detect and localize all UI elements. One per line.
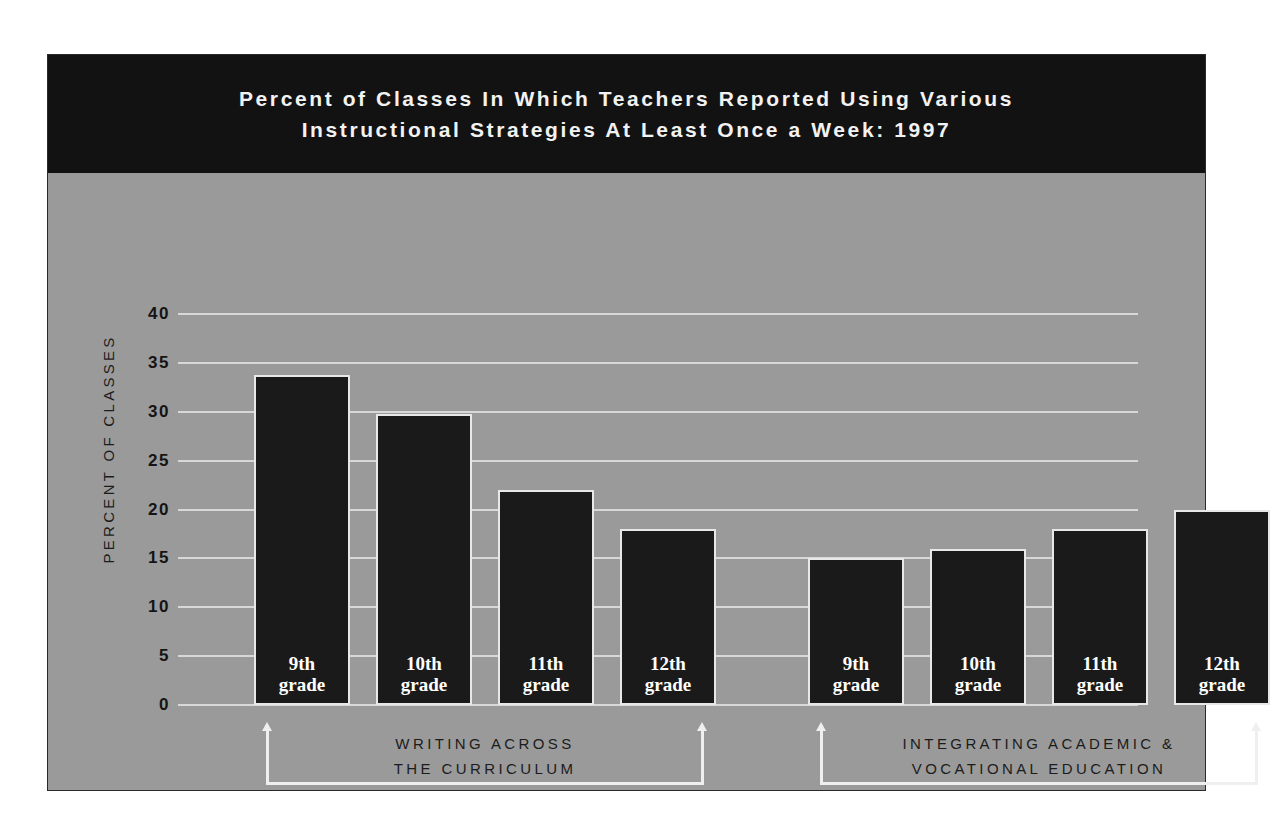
bar: 12thgrade	[1174, 510, 1270, 706]
bar-label: 12th	[1204, 653, 1240, 674]
gridline	[206, 362, 1138, 364]
group-bracket: INTEGRATING ACADEMIC &VOCATIONAL EDUCATI…	[820, 727, 1258, 785]
y-axis-tick	[178, 509, 210, 511]
bar-label: grade	[401, 674, 447, 695]
plot-region: PERCENT OF CLASSES 05101520253035409thgr…	[48, 173, 1205, 790]
bracket-arrow-icon	[1251, 722, 1261, 731]
group-label-line: INTEGRATING ACADEMIC &	[820, 731, 1258, 756]
y-axis-tick-label: 20	[106, 500, 170, 520]
bar-label: 9th	[289, 653, 315, 674]
y-axis-tick-label: 0	[106, 695, 170, 715]
bar-label: 10th	[960, 653, 996, 674]
chart-figure: Percent of Classes In Which Teachers Rep…	[48, 55, 1205, 790]
bar-label: 12th	[650, 653, 686, 674]
y-axis-tick-label: 25	[106, 451, 170, 471]
y-axis-tick	[178, 655, 210, 657]
bar-label: grade	[279, 674, 325, 695]
chart-title-band: Percent of Classes In Which Teachers Rep…	[48, 55, 1205, 173]
bar-label: 11th	[1083, 653, 1118, 674]
group-label-line: THE CURRICULUM	[266, 756, 704, 781]
bracket-arrow-icon	[262, 722, 272, 731]
group-label-line: WRITING ACROSS	[266, 731, 704, 756]
bracket-arrow-icon	[697, 722, 707, 731]
bar-label: grade	[645, 674, 691, 695]
y-axis-tick-label: 10	[106, 597, 170, 617]
bar: 9thgrade	[254, 375, 350, 705]
bar-label: 9th	[843, 653, 869, 674]
bar: 12thgrade	[620, 529, 716, 705]
group-label: INTEGRATING ACADEMIC &VOCATIONAL EDUCATI…	[820, 731, 1258, 781]
group-bracket: WRITING ACROSSTHE CURRICULUM	[266, 727, 704, 785]
bar: 10thgrade	[376, 414, 472, 705]
y-axis-tick-label: 30	[106, 402, 170, 422]
y-axis-tick	[178, 313, 210, 315]
bar-label: 10th	[406, 653, 442, 674]
bar-label: grade	[1199, 674, 1245, 695]
bar-label: grade	[523, 674, 569, 695]
y-axis-tick-label: 40	[106, 304, 170, 324]
chart-title-line-1: Percent of Classes In Which Teachers Rep…	[239, 83, 1014, 114]
bar-label: grade	[955, 674, 1001, 695]
bar-label: 11th	[529, 653, 564, 674]
group-label: WRITING ACROSSTHE CURRICULUM	[266, 731, 704, 781]
y-axis-tick	[178, 362, 210, 364]
bracket-arrow-icon	[816, 722, 826, 731]
group-label-line: VOCATIONAL EDUCATION	[820, 756, 1258, 781]
y-axis-tick	[178, 606, 210, 608]
bar: 9thgrade	[808, 558, 904, 705]
bracket-base	[266, 782, 704, 785]
bar-label: grade	[1077, 674, 1123, 695]
bar: 11thgrade	[1052, 529, 1148, 705]
bar: 11thgrade	[498, 490, 594, 705]
bracket-base	[820, 782, 1258, 785]
y-axis-tick	[178, 411, 210, 413]
chart-title-line-2: Instructional Strategies At Least Once a…	[302, 114, 952, 145]
gridline	[206, 313, 1138, 315]
y-axis-tick-label: 15	[106, 548, 170, 568]
bar: 10thgrade	[930, 549, 1026, 705]
y-axis-tick	[178, 460, 210, 462]
y-axis-tick-label: 5	[106, 646, 170, 666]
y-axis-tick-label: 35	[106, 353, 170, 373]
y-axis-tick	[178, 557, 210, 559]
axis-area: 05101520253035409thgrade10thgrade11thgra…	[158, 173, 1158, 790]
bar-label: grade	[833, 674, 879, 695]
y-axis-tick	[178, 704, 210, 706]
